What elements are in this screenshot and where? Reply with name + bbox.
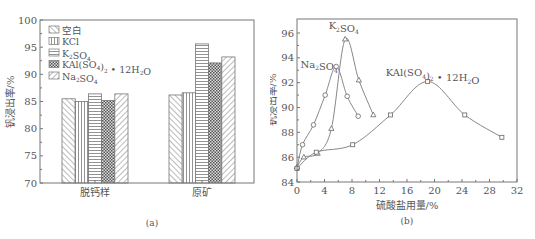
circle-marker bbox=[323, 93, 328, 98]
x-tick-label: 32 bbox=[511, 185, 524, 196]
y-tick-label: 80 bbox=[24, 123, 37, 134]
legend-swatch bbox=[49, 72, 59, 79]
y-axis-label-b: 钒浸出率/% bbox=[270, 74, 278, 127]
legend-swatch bbox=[49, 26, 59, 33]
legend-swatch bbox=[49, 49, 59, 56]
series-line bbox=[297, 38, 373, 167]
circle-marker bbox=[311, 123, 316, 128]
square-marker bbox=[500, 135, 504, 139]
square-marker bbox=[463, 113, 467, 117]
bar-group bbox=[62, 94, 128, 183]
x-tick-label: 12 bbox=[373, 185, 386, 196]
bar-chart-a: 707580859095100脱钙样原矿 空白KClK2SO4KAl(SO4)2… bbox=[0, 0, 270, 239]
circle-marker bbox=[356, 114, 361, 119]
x-tick-label: 28 bbox=[483, 185, 496, 196]
circle-marker bbox=[300, 142, 305, 147]
y-tick-label: 88 bbox=[281, 127, 294, 138]
bar bbox=[88, 94, 101, 183]
y-tick-label: 90 bbox=[24, 69, 37, 80]
x-tick-label: 原矿 bbox=[192, 186, 212, 198]
bar bbox=[102, 100, 115, 183]
square-marker bbox=[389, 113, 393, 117]
series-line bbox=[297, 67, 358, 169]
square-marker bbox=[351, 143, 355, 147]
y-tick-label: 70 bbox=[24, 178, 37, 189]
bar bbox=[209, 63, 222, 183]
x-tick-label: 4 bbox=[321, 185, 327, 196]
y-tick-label: 90 bbox=[281, 102, 294, 113]
y-tick-label: 94 bbox=[281, 52, 294, 63]
legend-label: KCl bbox=[62, 36, 79, 47]
bar bbox=[62, 99, 75, 183]
series-circle bbox=[295, 64, 361, 170]
legend-swatch bbox=[49, 38, 59, 45]
bar bbox=[195, 44, 208, 183]
bar bbox=[182, 93, 195, 183]
y-axis-label-a: 钒浸出率/% bbox=[4, 76, 16, 129]
y-tick-label: 84 bbox=[281, 177, 294, 188]
y-tick-label: 96 bbox=[281, 28, 294, 39]
x-tick-label: 脱钙样 bbox=[80, 186, 110, 198]
caption-b: (b) bbox=[401, 216, 414, 226]
x-axis-label-b: 硫酸盐用量/% bbox=[376, 199, 439, 211]
triangle-marker bbox=[356, 77, 361, 82]
bar bbox=[75, 102, 88, 184]
y-tick-label: 86 bbox=[281, 152, 294, 163]
y-tick-label: 75 bbox=[24, 150, 37, 161]
y-tick-label: 85 bbox=[24, 96, 37, 107]
square-marker bbox=[314, 150, 318, 154]
legend-swatch bbox=[49, 61, 59, 68]
axes-b: 84868890929496048121620242832 bbox=[281, 19, 523, 196]
x-tick-label: 8 bbox=[349, 185, 355, 196]
x-tick-label: 24 bbox=[456, 185, 469, 196]
legend-label: 空白 bbox=[62, 25, 82, 36]
bar bbox=[222, 57, 235, 183]
line-chart-b: Na2SO4K2SO4KAl(SO4)2 • 12H2O 84868890929… bbox=[270, 0, 535, 239]
x-tick-label: 20 bbox=[428, 185, 441, 196]
bar-group bbox=[169, 44, 235, 183]
series-label: K2SO4 bbox=[329, 20, 359, 35]
x-tick-label: 16 bbox=[401, 185, 414, 196]
bar bbox=[169, 95, 182, 183]
x-tick-label: 0 bbox=[294, 185, 300, 196]
triangle-marker bbox=[371, 112, 376, 117]
y-tick-label: 100 bbox=[18, 15, 37, 26]
legend-a: 空白KClK2SO4KAl(SO4)2 • 12H2ONa2SO4 bbox=[49, 25, 151, 86]
y-tick-label: 95 bbox=[24, 42, 37, 53]
plot-frame-b bbox=[297, 19, 517, 182]
caption-a: (a) bbox=[146, 218, 158, 228]
bar bbox=[115, 94, 128, 183]
series-label: Na2SO4 bbox=[300, 59, 338, 74]
y-tick-label: 92 bbox=[281, 77, 294, 88]
triangle-marker bbox=[329, 126, 334, 131]
plot-area-b: Na2SO4K2SO4KAl(SO4)2 • 12H2O bbox=[294, 20, 503, 170]
circle-marker bbox=[345, 94, 350, 99]
legend-label: Na2SO4 bbox=[62, 71, 98, 86]
